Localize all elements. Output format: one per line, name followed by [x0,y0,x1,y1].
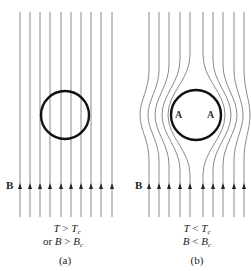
panel-a-condition-2: or B > Bc [43,235,83,249]
panel-a-field-label: B [6,179,13,191]
panel-b-field-label: B [135,179,142,191]
panel-a-sample-circle [41,91,89,139]
panel-a-caption: (a) [59,254,71,266]
panel-b-condition-1: T < Tc [183,222,210,236]
panel-a-arrows [18,183,114,189]
panel-b-condition-2: B < Bc [183,235,211,249]
meissner-diagram [0,0,251,271]
panel-b-arrows [147,183,246,189]
panel-b-point-label-right: A [207,109,214,120]
panel-a-field-lines [20,12,112,217]
panel-a-condition-1: T > Tc [53,222,80,236]
panel-b-point-label-left: A [175,109,182,120]
panel-b-caption: (b) [191,254,204,266]
